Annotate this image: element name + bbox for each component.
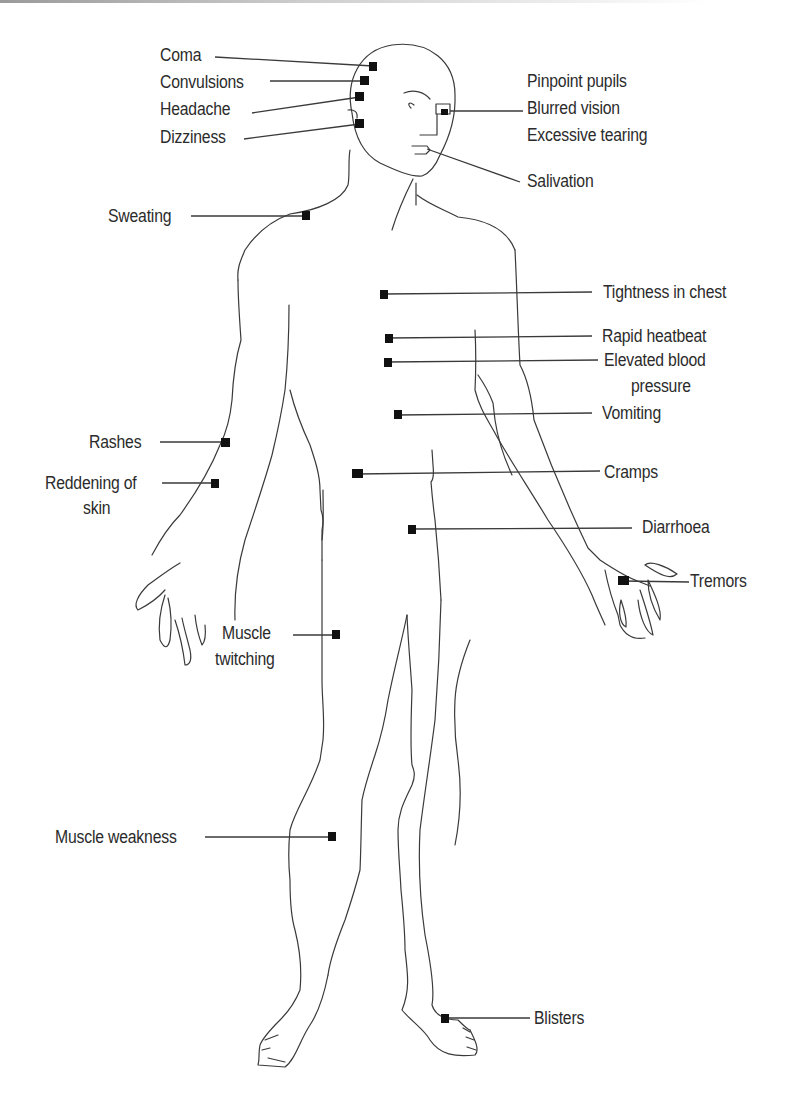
- marker-diarrhoea: [408, 525, 416, 534]
- marker-rapid-heartbeat: [385, 334, 393, 343]
- label-blurred-vision: Blurred vision: [527, 97, 620, 119]
- marker-tremors: [618, 576, 629, 585]
- marker-muscle-weakness: [328, 832, 336, 841]
- marker-reddening: [211, 479, 219, 488]
- label-rapid-heartbeat: Rapid heatbeat: [602, 325, 706, 347]
- label-diarrhoea: Diarrhoea: [642, 516, 710, 538]
- label-rashes: Rashes: [89, 431, 141, 453]
- marker-headache: [355, 92, 364, 101]
- label-headache: Headache: [160, 98, 230, 120]
- body-diagram: [0, 0, 789, 1101]
- legs-outline: [258, 560, 477, 1067]
- label-salivation: Salivation: [527, 170, 594, 192]
- label-twitching: twitching: [215, 648, 275, 670]
- label-tremors: Tremors: [690, 570, 747, 592]
- marker-rashes: [221, 438, 230, 447]
- marker-muscle-twitching: [332, 630, 340, 639]
- marker-sweating: [302, 211, 310, 220]
- label-muscle: Muscle: [222, 622, 271, 644]
- label-muscle-weakness: Muscle weakness: [55, 826, 177, 848]
- marker-coma: [369, 62, 377, 71]
- marker-blisters: [441, 1014, 449, 1023]
- body-outline: [136, 150, 677, 665]
- label-sweating: Sweating: [108, 205, 171, 227]
- label-elevated-blood: Elevated blood: [604, 349, 706, 371]
- label-excessive-tearing: Excessive tearing: [527, 124, 647, 146]
- label-cramps: Cramps: [604, 461, 658, 483]
- symptom-markers: [160, 57, 689, 1023]
- label-reddening-of: Reddening of: [45, 472, 137, 494]
- marker-convulsions: [360, 76, 369, 85]
- marker-eyes: [441, 109, 448, 115]
- marker-vomiting: [394, 410, 402, 419]
- marker-cramps: [352, 469, 363, 478]
- label-skin: skin: [83, 497, 110, 519]
- label-vomiting: Vomiting: [602, 402, 661, 424]
- marker-dizziness: [355, 119, 364, 128]
- head-outline: [348, 44, 455, 176]
- label-convulsions: Convulsions: [160, 71, 244, 93]
- marker-blood-pressure: [384, 358, 392, 367]
- label-tightness-in-chest: Tightness in chest: [603, 281, 726, 303]
- label-dizziness: Dizziness: [160, 126, 226, 148]
- label-pressure: pressure: [631, 375, 691, 397]
- label-coma: Coma: [160, 44, 201, 66]
- marker-chest-tightness: [380, 290, 388, 299]
- label-blisters: Blisters: [534, 1007, 584, 1029]
- label-pinpoint-pupils: Pinpoint pupils: [527, 70, 627, 92]
